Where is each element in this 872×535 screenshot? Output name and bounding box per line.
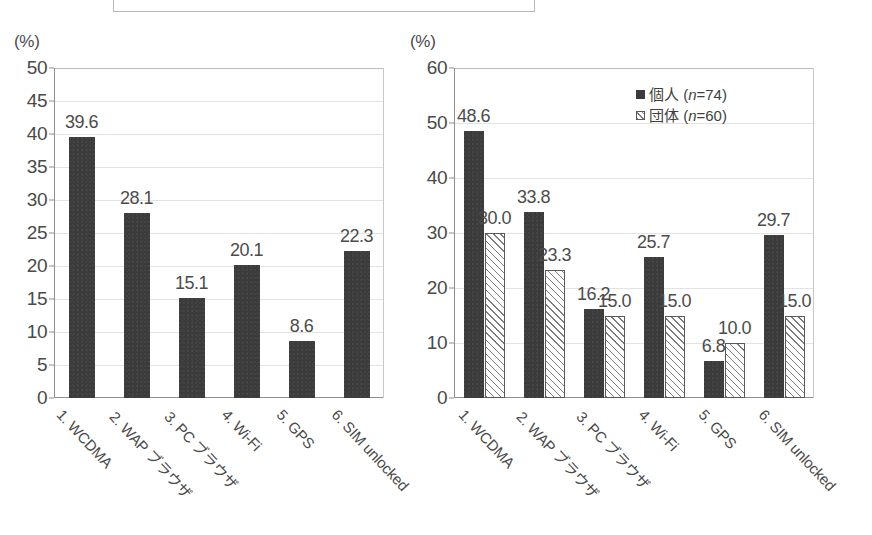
y-axis-tick-label: 35 — [27, 156, 47, 178]
gridline — [54, 200, 384, 201]
gridline — [54, 167, 384, 168]
bar — [764, 235, 784, 398]
bar — [524, 212, 544, 398]
bar-value-label: 8.6 — [290, 316, 314, 337]
left-chart: (%) 0510152025303540455039.628.115.120.1… — [4, 32, 424, 532]
plot-right-border — [813, 68, 814, 398]
bar — [344, 251, 370, 398]
y-axis-tick-label: 45 — [27, 90, 47, 112]
gridline — [454, 343, 814, 344]
legend-label-organization: 団体 (n=60) — [649, 105, 727, 126]
right-chart-unit-label: (%) — [410, 32, 436, 52]
y-axis-line — [454, 68, 455, 398]
bar — [665, 316, 685, 399]
gridline — [454, 233, 814, 234]
right-chart-legend: 個人 (n=74) 団体 (n=60) — [636, 84, 727, 126]
gridline — [54, 332, 384, 333]
bar — [124, 213, 150, 398]
bar-value-label: 15.0 — [658, 291, 691, 312]
y-axis-tick-label: 40 — [27, 123, 47, 145]
legend-item-organization: 団体 (n=60) — [636, 105, 727, 126]
y-axis-tick-label: 50 — [27, 57, 47, 79]
gridline — [54, 68, 384, 69]
bar — [69, 137, 95, 398]
x-axis-category-label: 5. GPS — [273, 406, 318, 452]
bar — [545, 270, 565, 398]
gridline — [54, 299, 384, 300]
right-chart: (%) 010203040506048.630.033.823.316.215.… — [404, 32, 872, 532]
gridline — [454, 68, 814, 69]
page-root: (%) 0510152025303540455039.628.115.120.1… — [0, 0, 872, 535]
y-axis-tick-label: 60 — [427, 57, 447, 79]
gridline — [454, 288, 814, 289]
x-axis-category-label: 6. SIM unlocked — [328, 406, 412, 494]
legend-swatch-individual — [636, 90, 645, 99]
y-axis-tick-label: 50 — [427, 112, 447, 134]
x-axis-category-label: 1. WCDMA — [53, 406, 115, 471]
bar — [234, 265, 260, 398]
bar-value-label: 10.0 — [718, 318, 751, 339]
plot-right-border — [383, 68, 384, 398]
bar-value-label: 20.1 — [230, 240, 263, 261]
y-axis-tick-label: 30 — [27, 189, 47, 211]
bar — [725, 343, 745, 398]
y-axis-tick-label: 5 — [37, 354, 47, 376]
bar-value-label: 15.1 — [175, 273, 208, 294]
left-chart-plot-area: 0510152025303540455039.628.115.120.18.62… — [54, 68, 384, 398]
legend-label-individual: 個人 (n=74) — [649, 84, 727, 105]
bar-value-label: 15.0 — [778, 291, 811, 312]
y-axis-tick-label: 30 — [427, 222, 447, 244]
bar-value-label: 15.0 — [598, 291, 631, 312]
x-axis-category-label: 5. GPS — [696, 406, 741, 452]
right-chart-plot-area: 010203040506048.630.033.823.316.215.025.… — [454, 68, 814, 398]
gridline — [454, 123, 814, 124]
y-axis-tick-label: 0 — [437, 387, 447, 409]
bar-value-label: 22.3 — [340, 226, 373, 247]
bar-value-label: 23.3 — [538, 245, 571, 266]
gridline — [54, 134, 384, 135]
x-axis-category-label: 6. SIM unlocked — [756, 406, 840, 494]
y-axis-tick-label: 15 — [27, 288, 47, 310]
bar — [485, 233, 505, 398]
x-axis-line — [454, 397, 814, 398]
bar — [704, 361, 724, 398]
bar — [464, 131, 484, 398]
y-axis-tick-label: 20 — [427, 277, 447, 299]
y-axis-tick-label: 40 — [427, 167, 447, 189]
gridline — [54, 266, 384, 267]
y-axis-tick-label: 20 — [27, 255, 47, 277]
bar-value-label: 39.6 — [65, 112, 98, 133]
bar-value-label: 48.6 — [457, 106, 490, 127]
gridline — [54, 101, 384, 102]
y-axis-tick-label: 10 — [427, 332, 447, 354]
bar — [584, 309, 604, 398]
y-axis-tick-label: 10 — [27, 321, 47, 343]
bar — [605, 316, 625, 399]
bar — [289, 341, 315, 398]
bar-value-label: 33.8 — [517, 187, 550, 208]
left-chart-unit-label: (%) — [14, 32, 40, 52]
bar-value-label: 29.7 — [757, 210, 790, 231]
x-axis-line — [54, 397, 384, 398]
gridline — [54, 233, 384, 234]
bar-value-label: 30.0 — [478, 208, 511, 229]
x-axis-category-label: 1. WCDMA — [456, 406, 518, 471]
y-axis-tick-label: 25 — [27, 222, 47, 244]
bar-value-label: 28.1 — [120, 188, 153, 209]
bar — [644, 257, 664, 398]
bar-value-label: 25.7 — [637, 232, 670, 253]
y-axis-tick-label: 0 — [37, 387, 47, 409]
gridline — [454, 178, 814, 179]
bar — [179, 298, 205, 398]
bar — [785, 316, 805, 399]
legend-swatch-organization — [636, 111, 645, 120]
top-cutoff-box — [113, 0, 535, 12]
gridline — [54, 365, 384, 366]
x-axis-category-label: 4. Wi-Fi — [636, 406, 683, 454]
x-axis-category-label: 4. Wi-Fi — [218, 406, 265, 454]
y-axis-line — [54, 68, 55, 398]
legend-item-individual: 個人 (n=74) — [636, 84, 727, 105]
